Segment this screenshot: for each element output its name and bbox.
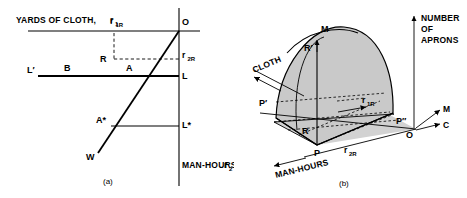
apron-axis-label-line1: NUMBER xyxy=(421,13,460,23)
label-r2R-base: r xyxy=(182,50,186,60)
cloth-axis-arrow xyxy=(254,77,281,91)
point-label-L: L xyxy=(182,71,188,81)
label-b-r1R-sub: 1R xyxy=(367,101,375,107)
figure-container: YARDS OF CLOTH, r 1 r 1R O R r 2R L′ B A… xyxy=(0,0,467,198)
apron-axis-label-line3: APRONS xyxy=(421,35,459,45)
point-label-B: B xyxy=(64,63,71,73)
point-label-O: O xyxy=(182,17,189,27)
label-b-r2R-base: r xyxy=(344,145,348,155)
point-label-O: O xyxy=(406,130,413,140)
panel-a-caption: (a) xyxy=(103,177,113,186)
expansion-path-OW xyxy=(98,31,179,153)
point-label-Lprime: L′ xyxy=(27,65,35,75)
point-label-Astar: A* xyxy=(96,115,106,125)
point-label-Rprime: R′ xyxy=(304,43,313,53)
label-r1R-sub: 1R xyxy=(116,22,124,28)
point-label-Pdoubleprime: P″ xyxy=(396,116,407,126)
label-b-r2R-sub: 2R xyxy=(349,151,357,157)
point-label-W: W xyxy=(86,152,95,162)
point-label-Lstar: L* xyxy=(182,120,191,130)
apron-axis-label-line2: OF xyxy=(421,24,433,34)
cloth-axis-label: YARDS OF CLOTH, xyxy=(16,15,96,25)
manhours-axis-label: MAN-HOURS xyxy=(274,157,330,180)
ray-label-M: M xyxy=(443,104,450,114)
panel-b-diagram: M R′ P′ R P P″ O r 1R r 2R NUMBER OF APR… xyxy=(234,0,467,198)
point-label-Pprime: P′ xyxy=(259,98,267,108)
point-label-M: M xyxy=(321,24,329,34)
point-label-R: R xyxy=(302,126,309,136)
label-r1R-base: r xyxy=(110,16,114,26)
label-b-r1R-base: r xyxy=(362,95,366,105)
ray-label-C: C xyxy=(443,120,449,130)
label-r2R-sub: 2R xyxy=(188,56,196,62)
panel-a-diagram: YARDS OF CLOTH, r 1 r 1R O R r 2R L′ B A… xyxy=(0,0,234,198)
point-label-P: P xyxy=(314,148,320,158)
manhours-axis-label-r: r xyxy=(224,160,228,170)
panel-b-caption: (b) xyxy=(339,179,349,188)
point-label-R: R xyxy=(100,54,107,64)
cloth-axis-label: CLOTH xyxy=(251,54,283,75)
point-label-A: A xyxy=(126,63,133,73)
